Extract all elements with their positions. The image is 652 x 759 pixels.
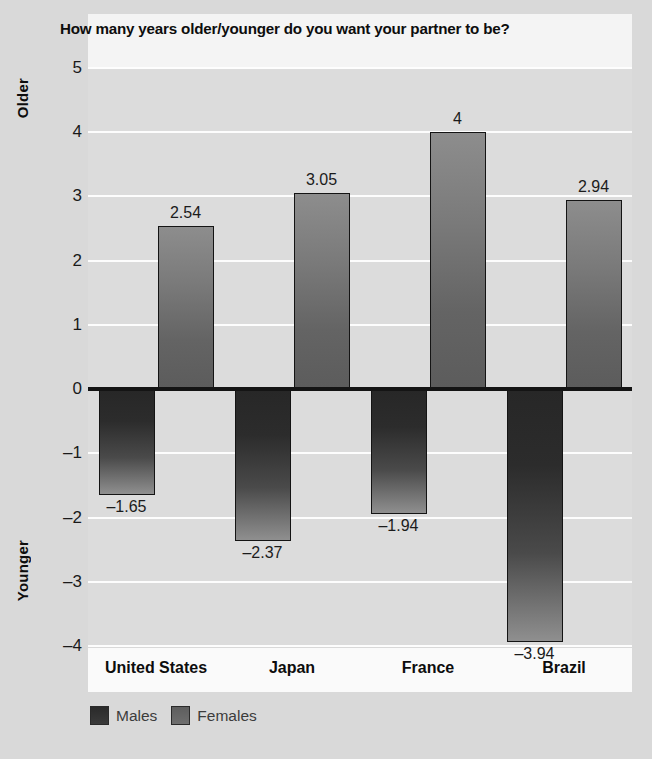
y-axis-tick-label: –1 (48, 443, 82, 463)
bar-females-japan[interactable] (294, 193, 350, 389)
plot-area: –1.652.54–2.373.05–1.944–3.942.94 (88, 68, 632, 646)
bar-value-label: 2.94 (550, 178, 638, 196)
y-axis-tick-labels: 543210–1–2–3–4 (40, 68, 82, 646)
axis-caption-younger: Younger (14, 540, 31, 601)
bar-value-label: 3.05 (278, 171, 366, 189)
y-axis-tick-label: –2 (48, 508, 82, 528)
zero-axis-line (88, 387, 632, 391)
legend-label: Males (116, 707, 157, 725)
legend-swatch-females (171, 706, 190, 725)
page-title: How many years older/younger do you want… (60, 20, 640, 37)
axis-caption-older: Older (14, 78, 31, 118)
bar-females-united-states[interactable] (158, 226, 214, 389)
y-axis-tick-label: 4 (48, 122, 82, 142)
category-label-japan: Japan (224, 659, 360, 677)
category-label-united-states: United States (88, 659, 224, 677)
legend-item-males[interactable]: Males (90, 706, 157, 725)
legend-swatch-males (90, 706, 109, 725)
y-axis-tick-label: 0 (48, 379, 82, 399)
legend-label: Females (197, 707, 256, 725)
bar-value-label: 4 (414, 110, 502, 128)
bar-females-brazil[interactable] (566, 200, 622, 389)
gridline (88, 131, 632, 133)
bar-value-label: –3.94 (491, 645, 579, 663)
gridline (88, 67, 632, 69)
bar-value-label: –1.94 (355, 517, 443, 535)
bar-value-label: 2.54 (142, 204, 230, 222)
y-axis-tick-label: 1 (48, 315, 82, 335)
legend-item-females[interactable]: Females (171, 706, 256, 725)
y-axis-tick-label: 3 (48, 186, 82, 206)
category-label-france: France (360, 659, 496, 677)
bar-males-united-states[interactable] (99, 389, 155, 495)
bar-value-label: –1.65 (83, 498, 171, 516)
bar-males-france[interactable] (371, 389, 427, 514)
y-axis-tick-label: 2 (48, 251, 82, 271)
bar-value-label: –2.37 (219, 544, 307, 562)
y-axis-tick-label: 5 (48, 58, 82, 78)
y-axis-tick-label: –4 (48, 636, 82, 656)
y-axis-tick-label: –3 (48, 572, 82, 592)
bar-females-france[interactable] (430, 132, 486, 389)
bar-males-brazil[interactable] (507, 389, 563, 642)
chart-legend: MalesFemales (90, 706, 257, 725)
bar-males-japan[interactable] (235, 389, 291, 541)
